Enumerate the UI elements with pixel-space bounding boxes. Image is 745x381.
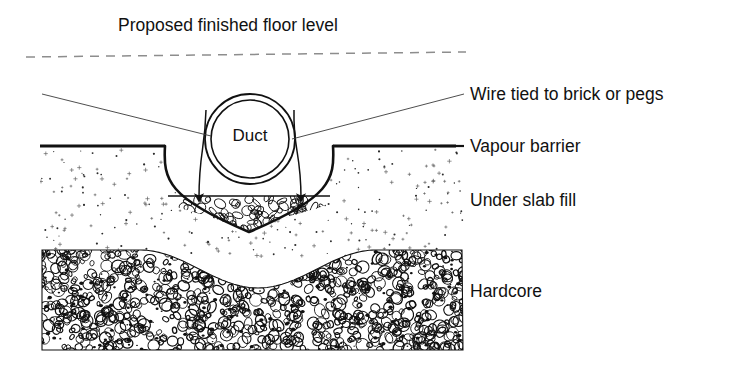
callout-label-vapour-barrier: Vapour barrier xyxy=(470,136,581,156)
callout-label-hardcore: Hardcore xyxy=(470,281,542,301)
callout-label-wire-tied-to-brick-or-pegs: Wire tied to brick or pegs xyxy=(470,84,664,104)
diagram-root: Proposed finished floor level Duct Wire … xyxy=(0,0,745,381)
duct-label: Duct xyxy=(233,126,268,145)
page-title: Proposed finished floor level xyxy=(118,15,338,35)
cross-section-drawing: Proposed finished floor level Duct Wire … xyxy=(0,0,745,381)
callout-label-under-slab-fill: Under slab fill xyxy=(470,190,576,210)
